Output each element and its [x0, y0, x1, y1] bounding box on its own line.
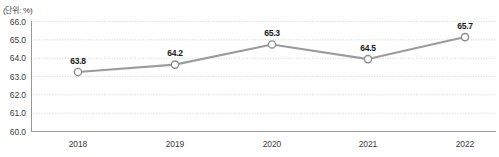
data-point-marker[interactable] — [364, 56, 371, 63]
y-tick-label: 60.0 — [10, 127, 27, 137]
data-point-marker[interactable] — [268, 41, 275, 48]
data-point-marker[interactable] — [74, 68, 81, 75]
x-tick-label: 2019 — [166, 139, 185, 149]
data-point-label: 63.8 — [70, 56, 86, 66]
data-point-label: 65.7 — [457, 21, 473, 31]
x-tick-label: 2020 — [263, 139, 282, 149]
line-chart-container: (단위: %) 66.0 65.0 64.0 63.0 62.0 61.0 60… — [0, 0, 499, 157]
data-point-label: 64.5 — [360, 43, 376, 53]
x-axis-ticks: 2018 2019 2020 2021 2022 — [69, 139, 475, 149]
y-tick-label: 66.0 — [10, 17, 27, 27]
x-tick-label: 2018 — [69, 139, 88, 149]
x-tick-label: 2022 — [456, 139, 475, 149]
y-axis-ticks: 66.0 65.0 64.0 63.0 62.0 61.0 60.0 — [10, 17, 27, 137]
x-tick-label: 2021 — [359, 139, 378, 149]
y-tick-label: 65.0 — [10, 35, 27, 45]
data-point-marker[interactable] — [461, 34, 468, 41]
chart-plot-area: 66.0 65.0 64.0 63.0 62.0 61.0 60.0 63.8 … — [0, 0, 499, 157]
y-tick-label: 61.0 — [10, 108, 27, 118]
data-point-marker[interactable] — [171, 61, 178, 68]
data-point-label: 65.3 — [264, 28, 280, 38]
y-tick-label: 62.0 — [10, 90, 27, 100]
y-tick-label: 64.0 — [10, 53, 27, 63]
data-point-label: 64.2 — [167, 48, 183, 58]
y-tick-label: 63.0 — [10, 72, 27, 82]
